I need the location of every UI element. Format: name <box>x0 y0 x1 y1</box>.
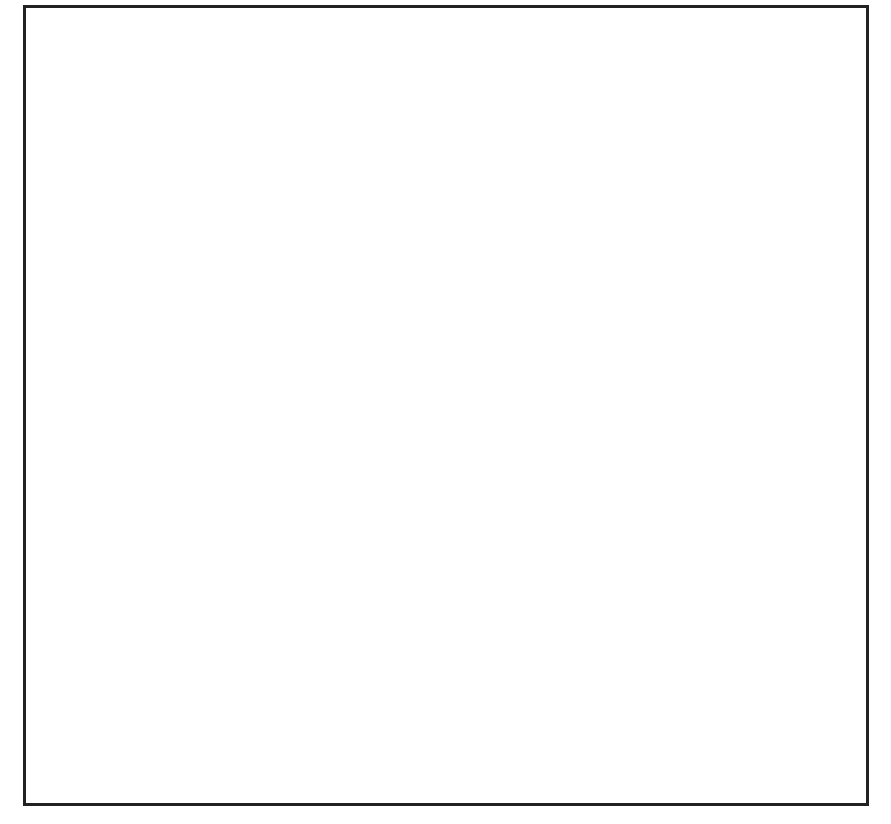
shuffle-network-diagram <box>0 0 891 824</box>
